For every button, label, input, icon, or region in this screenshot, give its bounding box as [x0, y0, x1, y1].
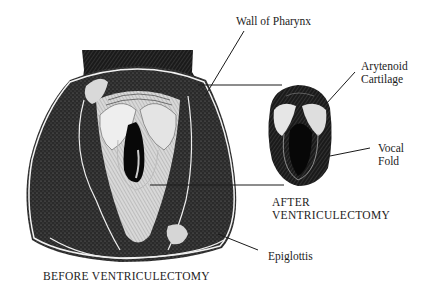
caption-after-line1: AFTER — [272, 196, 390, 209]
caption-after-line2: VENTRICULECTOMY — [272, 209, 390, 222]
label-arytenoid-line2: Cartilage — [361, 73, 408, 86]
label-epiglottis: Epiglottis — [268, 250, 313, 263]
label-vocal-fold: Vocal Fold — [378, 142, 404, 168]
leader-wall-of-pharynx — [205, 31, 244, 96]
caption-before-ventriculectomy: BEFORE VENTRICULECTOMY — [43, 270, 210, 283]
larynx-illustration — [0, 0, 430, 288]
leader-vocal-fold — [330, 148, 370, 156]
leader-arytenoid — [326, 72, 355, 104]
larynx-before-ventriculectomy — [26, 50, 236, 262]
caption-after-ventriculectomy: AFTER VENTRICULECTOMY — [272, 196, 390, 222]
label-wall-of-pharynx: Wall of Pharynx — [236, 15, 311, 28]
larynx-after-ventriculectomy — [268, 85, 331, 186]
label-vocal-line2: Fold — [378, 155, 404, 168]
label-vocal-line1: Vocal — [378, 142, 404, 155]
label-arytenoid-line1: Arytenoid — [361, 60, 408, 73]
label-arytenoid-cartilage: Arytenoid Cartilage — [361, 60, 408, 86]
